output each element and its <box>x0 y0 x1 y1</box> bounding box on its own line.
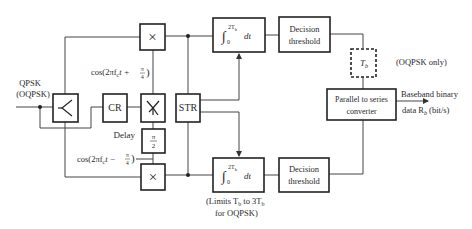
svg-text:×: × <box>148 29 156 45</box>
svg-text:π: π <box>126 152 129 158</box>
svg-text:0: 0 <box>227 179 230 185</box>
oqpsk-only-label: (OQPSK only) <box>396 57 447 67</box>
bottom-junction-dot <box>186 173 190 177</box>
top-multiplier: × <box>140 24 165 50</box>
symbol-timing-recovery-block: STR <box>176 94 200 122</box>
svg-text:): ) <box>146 66 150 79</box>
svg-text:threshold: threshold <box>289 36 321 46</box>
bottom-decision-threshold: Decision threshold <box>279 158 329 192</box>
svg-text:dt: dt <box>244 171 252 181</box>
svg-text:4: 4 <box>141 74 144 80</box>
svg-text:π: π <box>141 66 144 72</box>
top-decision-threshold: Decision threshold <box>279 17 330 52</box>
top-junction-dot <box>186 34 190 38</box>
svg-text:): ) <box>131 152 135 165</box>
svg-text:π: π <box>152 133 156 141</box>
phase-shift-block: π 2 <box>142 129 165 153</box>
input-splitter <box>53 94 78 122</box>
input-junction-dot <box>38 105 42 109</box>
svg-text:converter: converter <box>346 107 377 116</box>
bottom-multiplier: × <box>141 164 165 190</box>
svg-text:2: 2 <box>152 142 156 150</box>
svg-text:Parallel to series: Parallel to series <box>335 95 388 104</box>
svg-text:0: 0 <box>227 39 230 45</box>
output-label-line2: data Rb (bit/s) <box>402 105 450 116</box>
cos-bottom-label: cos(2πfct − <box>77 154 115 165</box>
output-label-line1: Baseband binary <box>401 89 459 99</box>
delay-label: Delay <box>114 130 136 140</box>
limits-label-line1: (Limits Tb to 3Tb <box>206 196 265 207</box>
svg-text:STR: STR <box>179 102 198 113</box>
svg-text:Decision: Decision <box>289 24 320 34</box>
limits-label-line2: for OQPSK) <box>215 208 258 218</box>
svg-text:dt: dt <box>244 31 252 41</box>
tb-delay-block: Tb <box>351 49 376 77</box>
top-integrator: ∫ 2Tb 0 dt <box>213 18 265 52</box>
parallel-to-series-converter: Parallel to series converter <box>327 89 396 120</box>
carrier-splitter <box>141 94 165 122</box>
receiver-diagram: CR STR × × π 2 ∫ 2Tb 0 dt ∫ 2Tb <box>0 0 472 229</box>
svg-text:4: 4 <box>126 160 129 166</box>
svg-text:CR: CR <box>108 102 122 113</box>
cos-top-label: cos(2πfct + <box>91 67 129 78</box>
svg-text:threshold: threshold <box>288 176 320 186</box>
input-label-qpsk: QPSK <box>19 78 42 88</box>
input-label-oqpsk: (OQPSK) <box>16 89 50 99</box>
bottom-integrator: ∫ 2Tb 0 dt <box>213 158 264 192</box>
svg-text:Decision: Decision <box>289 164 320 174</box>
svg-text:×: × <box>149 169 157 185</box>
carrier-recovery-block: CR <box>103 94 127 122</box>
